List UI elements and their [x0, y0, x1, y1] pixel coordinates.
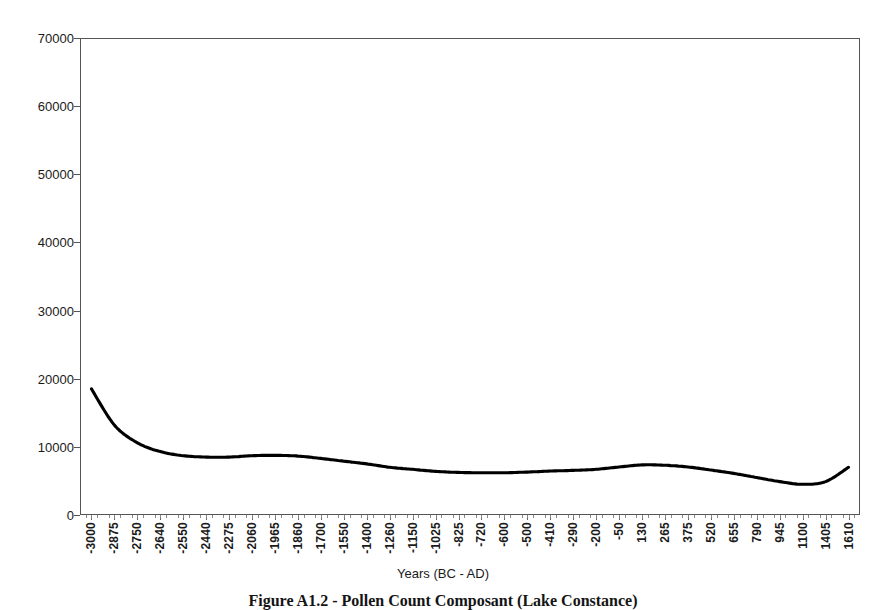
series-layer: [0, 0, 886, 590]
x-axis-title: Years (BC - AD): [0, 566, 886, 581]
pollen-count-chart: Arboreal Pollen Count 010000200003000040…: [0, 0, 886, 590]
pollen-count-line: [92, 389, 849, 484]
figure-caption: Figure A1.2 - Pollen Count Composant (La…: [0, 592, 886, 610]
figure-root: Arboreal Pollen Count 010000200003000040…: [0, 0, 886, 610]
